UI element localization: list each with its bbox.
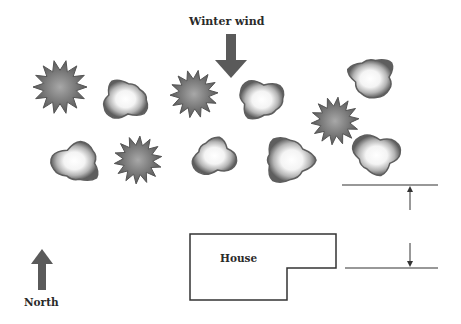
evergreen-tree-icon <box>311 97 359 145</box>
distance-indicator <box>342 185 438 268</box>
windbreak-plants <box>33 60 400 184</box>
wind-arrow-icon <box>215 34 247 78</box>
deciduous-tree-icon <box>192 137 236 174</box>
deciduous-tree-icon <box>51 141 98 180</box>
deciduous-tree-icon <box>104 80 148 118</box>
deciduous-tree-icon <box>348 60 393 98</box>
diagram-canvas <box>0 0 461 324</box>
down-arrow-icon <box>407 261 413 267</box>
winter-wind-label: Winter wind <box>189 15 264 28</box>
north-arrow-icon <box>31 249 53 290</box>
windbreak-diagram: Winter wind North House <box>0 0 461 324</box>
evergreen-tree-icon <box>33 61 87 114</box>
house-label: House <box>220 252 257 264</box>
deciduous-tree-icon <box>240 81 284 119</box>
house-outline <box>190 234 336 300</box>
evergreen-tree-icon <box>114 136 161 184</box>
up-arrow-icon <box>407 186 413 192</box>
deciduous-tree-icon <box>353 135 401 175</box>
evergreen-tree-icon <box>170 70 218 117</box>
deciduous-tree-icon <box>268 138 316 183</box>
north-label: North <box>24 296 59 308</box>
